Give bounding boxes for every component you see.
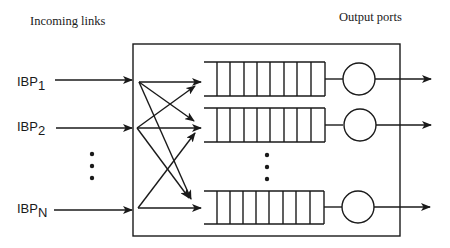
switch-box [133,44,400,236]
switch-diagram: Incoming links Output ports IBP1 IBP2 IB… [0,0,450,248]
output-port-2 [344,109,376,141]
svg-text:IBP1: IBP1 [17,74,45,93]
svg-text:IBPN: IBPN [17,201,47,220]
input-label-N: IBPN [17,201,47,220]
crossbar-fabric [137,82,201,208]
incoming-links-title: Incoming links [30,14,105,28]
output-port-1 [343,63,375,95]
queue-N [204,191,342,224]
input-ellipsis [90,152,94,180]
queue-1 [204,62,343,96]
queue-2 [204,108,343,142]
output-ports-title: Output ports [339,10,402,24]
svg-text:IBP2: IBP2 [17,119,45,138]
input-label-1: IBP1 [17,74,45,93]
input-label-2: IBP2 [17,119,45,138]
output-port-N [342,191,374,223]
queue-ellipsis [265,153,269,181]
